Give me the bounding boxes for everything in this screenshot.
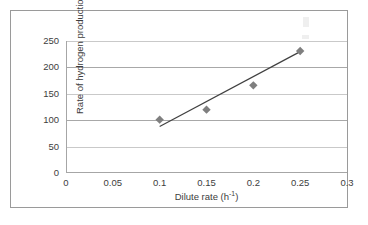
x-axis-title: Dilute rate (h-1) bbox=[66, 191, 347, 202]
x-tick-label: 0.1 bbox=[153, 177, 166, 188]
y-tick-label: 100 bbox=[43, 115, 59, 125]
data-series-layer bbox=[66, 41, 347, 173]
y-axis-tick-labels: 050100150200250 bbox=[25, 41, 63, 173]
trendline bbox=[160, 53, 299, 127]
x-axis-title-superscript: -1 bbox=[229, 190, 235, 197]
x-tick-label: 0.15 bbox=[197, 177, 216, 188]
x-tick-label: 0 bbox=[63, 177, 68, 188]
x-tick-label: 0.2 bbox=[247, 177, 260, 188]
y-tick-label: 0 bbox=[54, 168, 59, 178]
x-tick-label: 0.05 bbox=[104, 177, 123, 188]
data-point-marker bbox=[249, 81, 257, 89]
chart-plot-area: 050100150200250 00.050.10.150.20.250.3 D… bbox=[11, 11, 349, 209]
data-point-marker bbox=[155, 115, 163, 123]
y-axis-title-text: Rate of hydrogen production (mL L-1 h-1) bbox=[74, 0, 85, 114]
scan-artifact-mark bbox=[303, 17, 309, 27]
y-axis-title: Rate of hydrogen production (mL L-1 h-1) bbox=[14, 0, 28, 114]
figure-frame: 050100150200250 00.050.10.150.20.250.3 D… bbox=[10, 10, 348, 208]
data-point-marker bbox=[296, 47, 304, 55]
x-tick-label: 0.25 bbox=[291, 177, 310, 188]
y-tick-label: 50 bbox=[48, 142, 59, 152]
data-point-marker bbox=[202, 105, 210, 113]
x-tick-label: 0.3 bbox=[340, 177, 353, 188]
x-axis-tick-labels: 00.050.10.150.20.250.3 bbox=[66, 177, 347, 191]
y-tick-label: 150 bbox=[43, 89, 59, 99]
y-tick-label: 200 bbox=[43, 62, 59, 72]
y-tick-label: 250 bbox=[43, 36, 59, 46]
scan-artifact-mark bbox=[302, 35, 309, 39]
